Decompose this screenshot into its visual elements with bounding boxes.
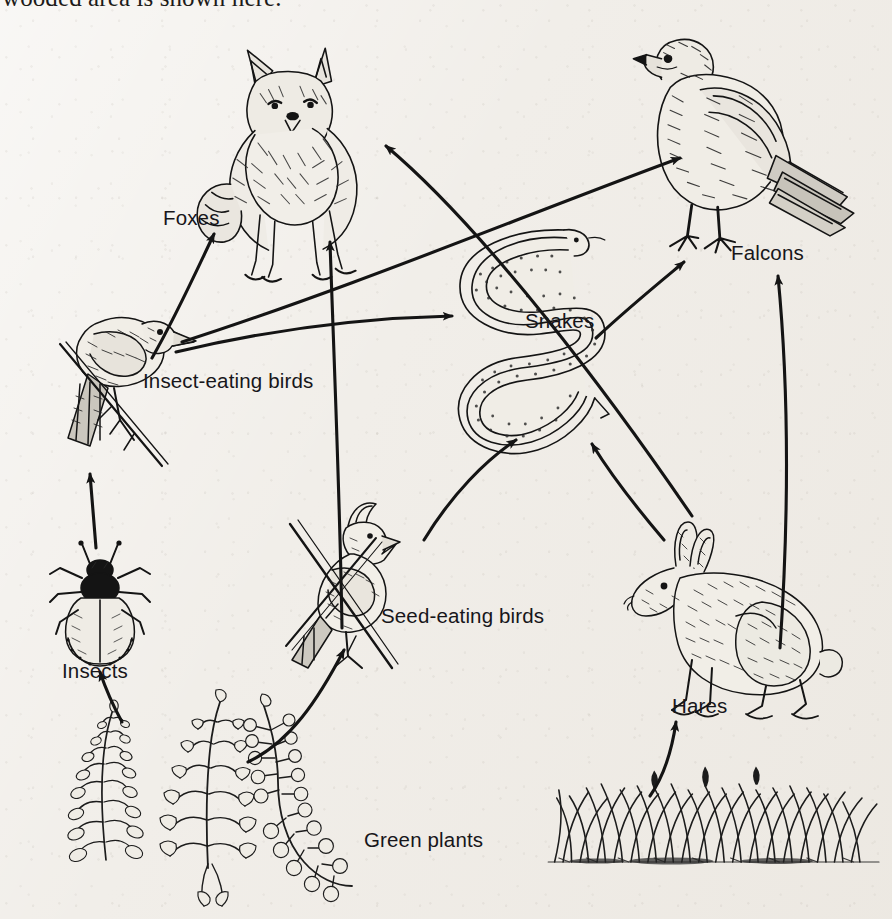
- organism-illustrations: [50, 39, 879, 906]
- label-green-plants: Green plants: [364, 828, 483, 852]
- grass-illustration: [548, 768, 879, 865]
- green-plant-sprig-a: [66, 700, 145, 864]
- snake-illustration: [458, 230, 608, 454]
- label-seed-eating-birds: Seed-eating birds: [381, 604, 544, 628]
- arrow-green-plants-to-seed-eating-birds: [248, 650, 344, 762]
- hare-illustration: [624, 522, 842, 719]
- food-web-page: wooded area is shown here.: [0, 0, 892, 919]
- arrow-insects-to-insect-eating-birds: [90, 474, 96, 548]
- label-insects: Insects: [62, 659, 128, 683]
- label-hares: Hares: [672, 694, 727, 718]
- green-plant-sprig-b: [160, 690, 256, 907]
- fox-illustration: [197, 48, 357, 281]
- insect-illustration: [50, 540, 150, 666]
- label-insect-eating-birds: Insect-eating birds: [143, 369, 313, 393]
- label-foxes: Foxes: [163, 206, 220, 230]
- food-web-diagram: [0, 0, 892, 919]
- label-snakes: Snakes: [525, 309, 594, 333]
- arrow-seed-eating-birds-to-snakes: [424, 440, 516, 540]
- falcon-illustration: [633, 39, 853, 252]
- arrow-insect-eating-birds-to-snakes: [176, 316, 452, 352]
- label-falcons: Falcons: [731, 241, 804, 265]
- arrow-snakes-to-falcons: [596, 262, 684, 338]
- seed-eating-bird-illustration: [286, 503, 400, 668]
- green-plant-sprig-c: [244, 694, 352, 902]
